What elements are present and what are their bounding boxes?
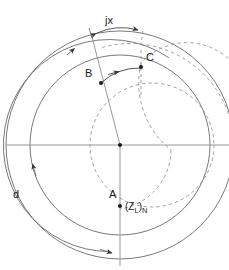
constant-reactance-arc-upper <box>141 43 229 145</box>
point-a-label: A <box>109 189 116 200</box>
smith-chart-figure: jx B C A d (ZL)N <box>0 0 229 270</box>
point-a-marker <box>118 204 122 208</box>
load-subscript-n: N <box>142 206 147 215</box>
smith-chart-canvas <box>0 0 229 270</box>
point-b-label: B <box>85 68 92 79</box>
constant-reactance-arc-outer <box>100 44 229 145</box>
jx-tick-left <box>89 28 92 38</box>
chart-center-marker <box>118 143 122 147</box>
radial-line-through-b <box>91 33 120 145</box>
reactance-label: jx <box>105 15 113 26</box>
distance-d-arrow-top <box>67 49 75 56</box>
distance-d-label: d <box>13 189 19 200</box>
swr-circle-direction-arrow <box>33 164 37 176</box>
constant-reactance-arc-through-c <box>139 63 171 150</box>
load-impedance-label: (ZL)N <box>125 202 147 215</box>
arc-b-to-c <box>101 68 140 83</box>
point-b-marker <box>99 81 103 85</box>
point-c-marker <box>139 65 143 69</box>
point-c-label: C <box>146 52 154 63</box>
